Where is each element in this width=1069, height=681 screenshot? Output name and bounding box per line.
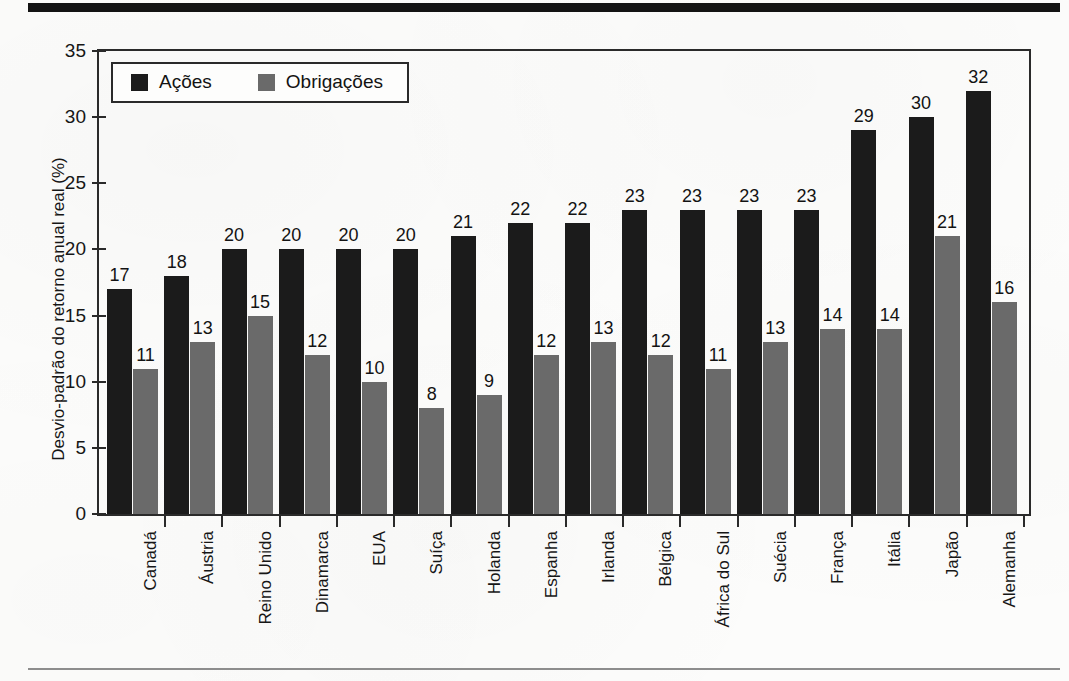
bar-value-label: 32 [968, 67, 988, 88]
bar-bonds: 13 [763, 342, 788, 514]
x-tick-mark [622, 514, 624, 527]
x-tick-mark [908, 514, 910, 527]
y-tick-mark [92, 513, 106, 515]
bar-bonds: 11 [133, 369, 158, 515]
y-tick-label: 35 [65, 40, 86, 62]
bar-value-label: 14 [880, 305, 900, 326]
bar-value-label: 22 [567, 199, 587, 220]
legend-label-equities: Ações [159, 71, 212, 93]
bar-value-label: 22 [510, 199, 530, 220]
y-tick-mark [92, 447, 106, 449]
x-tick-mark [508, 514, 510, 527]
x-tick-label: Suíça [427, 531, 447, 574]
bar-value-label: 16 [994, 278, 1014, 299]
bar-equities: 20 [222, 249, 247, 514]
x-tick-label: França [828, 531, 848, 584]
bar-equities: 20 [393, 249, 418, 514]
y-tick-label: 15 [65, 305, 86, 327]
x-tick-mark [336, 514, 338, 527]
bar-value-label: 12 [536, 331, 556, 352]
bar-bonds: 10 [362, 382, 387, 514]
x-tick-mark [565, 514, 567, 527]
x-tick-label: Dinamarca [313, 531, 333, 613]
bar-value-label: 10 [364, 358, 384, 379]
bar-bonds: 14 [877, 329, 902, 514]
bar-bonds: 9 [477, 395, 502, 514]
bar-bonds: 16 [992, 302, 1017, 514]
x-tick-mark [221, 514, 223, 527]
x-tick-label: Áustria [198, 531, 218, 584]
bar-value-label: 20 [338, 225, 358, 246]
bonds-swatch [258, 74, 275, 91]
bar-value-label: 11 [136, 345, 155, 366]
bar-bonds: 14 [820, 329, 845, 514]
bar-equities: 23 [737, 210, 762, 514]
y-tick-label: 0 [75, 503, 86, 525]
bar-bonds: 11 [706, 369, 731, 515]
bar-value-label: 8 [427, 384, 437, 405]
bar-group: 3216 [966, 51, 1023, 514]
bar-equities: 29 [851, 130, 876, 514]
x-tick-mark [393, 514, 395, 527]
bar-equities: 23 [794, 210, 819, 514]
bar-value-label: 13 [765, 318, 785, 339]
x-tick-mark [737, 514, 739, 527]
bar-value-label: 12 [307, 331, 327, 352]
y-tick-label: 25 [65, 172, 86, 194]
bar-group: 1813 [164, 51, 221, 514]
x-tick-mark [164, 514, 166, 527]
x-tick-label: Bélgica [656, 531, 676, 587]
bar-equities: 18 [164, 276, 189, 514]
legend-item-bonds: Obrigações [258, 71, 383, 93]
x-tick-mark [1023, 514, 1025, 527]
x-tick-label: Holanda [485, 531, 505, 594]
y-tick-label: 20 [65, 238, 86, 260]
bar-group: 2914 [851, 51, 908, 514]
bar-value-label: 20 [281, 225, 301, 246]
bar-value-label: 23 [682, 186, 702, 207]
bar-value-label: 14 [822, 305, 842, 326]
top-divider-rule [28, 3, 1060, 12]
x-tick-label: África do Sul [714, 531, 734, 627]
bar-value-label: 11 [709, 345, 728, 366]
bar-equities: 30 [909, 117, 934, 514]
bar-bonds: 8 [419, 408, 444, 514]
y-tick-mark [92, 182, 106, 184]
bar-value-label: 23 [796, 186, 816, 207]
bar-value-label: 20 [396, 225, 416, 246]
bar-group: 2313 [737, 51, 794, 514]
bar-group: 2012 [279, 51, 336, 514]
x-tick-label: Suécia [771, 531, 791, 583]
bar-group: 2213 [565, 51, 622, 514]
legend-item-equities: Ações [131, 71, 212, 93]
y-tick-label: 30 [65, 106, 86, 128]
x-tick-label: EUA [370, 531, 390, 566]
bar-value-label: 23 [625, 186, 645, 207]
x-tick-label: Reino Unido [256, 531, 276, 625]
bar-group: 3021 [909, 51, 966, 514]
bar-equities: 20 [279, 249, 304, 514]
bar-equities: 32 [966, 91, 991, 514]
x-tick-label: Japão [943, 531, 963, 577]
equities-swatch [131, 74, 148, 91]
x-tick-mark [279, 514, 281, 527]
bar-bonds: 13 [190, 342, 215, 514]
bar-value-label: 15 [250, 292, 270, 313]
bar-value-label: 20 [224, 225, 244, 246]
bar-value-label: 21 [937, 212, 957, 233]
plot-area: Desvio-padrão do retorno anual real (%) … [97, 49, 1031, 516]
x-tick-mark [966, 514, 968, 527]
bar-value-label: 17 [109, 265, 129, 286]
bar-group: 2314 [794, 51, 851, 514]
bottom-divider-rule [28, 668, 1060, 670]
bar-equities: 22 [508, 223, 533, 514]
bar-group: 2010 [336, 51, 393, 514]
bar-value-label: 9 [484, 371, 494, 392]
bar-group: 2015 [222, 51, 279, 514]
bars-layer: 1711181320152012201020821922122213231223… [99, 51, 1029, 514]
bar-value-label: 18 [167, 252, 187, 273]
bar-group: 208 [393, 51, 450, 514]
bar-value-label: 29 [854, 106, 874, 127]
bar-value-label: 13 [593, 318, 613, 339]
x-tick-mark [679, 514, 681, 527]
